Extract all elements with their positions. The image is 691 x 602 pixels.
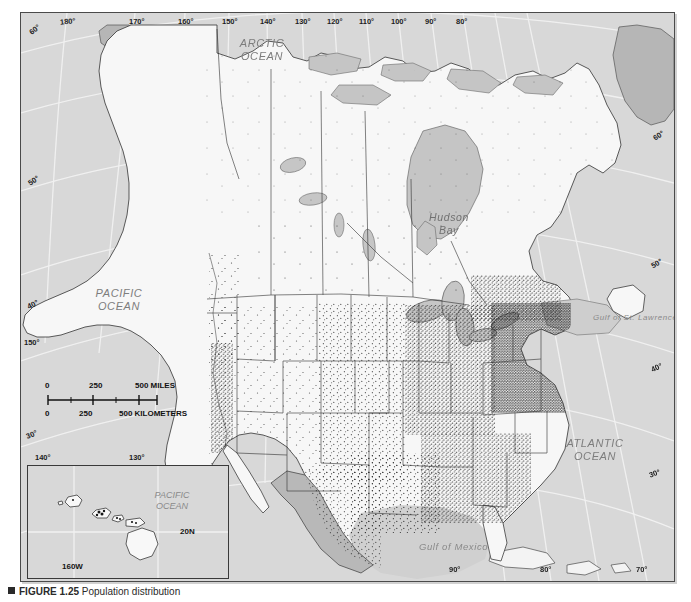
scale-miles-row: 0 250 500 MILES [45, 381, 205, 392]
distance-scale-bar: 0 250 500 MILES 0 250 500 KILOMETERS [45, 381, 205, 421]
scale-km-end: 500 KILOMETERS [119, 409, 187, 418]
inset-longitude-label: 160W [62, 562, 83, 571]
scale-ruler [45, 393, 205, 407]
figure-title: Population distribution [82, 586, 180, 597]
inset-pacific-ocean-label: PACIFIC OCEAN [140, 490, 204, 512]
inset-latitude-label: 20N [180, 527, 195, 536]
graticule-label-left-150: 150° [24, 338, 40, 347]
figure-page: ARCTIC OCEAN PACIFIC OCEAN ATLANTIC OCEA… [0, 0, 691, 602]
scale-miles-mid: 250 [89, 381, 102, 390]
graticule-label-top-170: 170° [129, 17, 145, 26]
hawaii-inset-map: PACIFIC OCEAN 20N 160W [27, 465, 229, 579]
north-america-population-map: ARCTIC OCEAN PACIFIC OCEAN ATLANTIC OCEA… [20, 12, 675, 582]
scale-miles-end: 500 MILES [135, 381, 175, 390]
scale-km-mid: 250 [79, 409, 92, 418]
graticule-label-top-160: 160° [178, 17, 194, 26]
scale-km-start: 0 [45, 409, 49, 418]
graticule-label-top-140: 140° [260, 17, 276, 26]
figure-number: FIGURE 1.25 [19, 586, 79, 597]
graticule-label-top-100: 100° [391, 17, 407, 26]
scale-kilometers-row: 0 250 500 KILOMETERS [45, 409, 205, 420]
graticule-label-bottom-90: 90° [449, 565, 460, 574]
graticule-label-bottom-80: 80° [540, 565, 551, 574]
graticule-label-top-130: 130° [295, 17, 311, 26]
graticule-label-top-80: 80° [456, 17, 467, 26]
graticule-label-top-110: 110° [359, 17, 374, 26]
scale-miles-start: 0 [45, 381, 49, 390]
graticule-label-left-140: 140° [35, 453, 51, 462]
graticule-label-bottom-70: 70° [636, 565, 647, 574]
graticule-label-top-180: 180° [60, 16, 76, 27]
caption-bullet-icon [8, 587, 15, 594]
graticule-label-top-90: 90° [425, 17, 436, 26]
hawaii-inset-graphic [28, 466, 228, 578]
graticule-label-top-150: 150° [222, 17, 238, 26]
figure-caption: FIGURE 1.25 Population distribution [8, 586, 668, 602]
graticule-label-top-120: 120° [327, 17, 343, 26]
graticule-label-inner-130: 130° [129, 453, 145, 462]
